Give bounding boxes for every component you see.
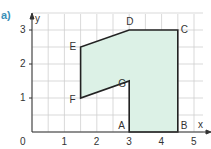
- y-tick-label: 1: [20, 93, 26, 103]
- vertex-label-e: E: [70, 42, 77, 52]
- vertex-label-g: G: [118, 79, 126, 89]
- y-tick-label: 2: [20, 59, 26, 69]
- coordinate-figure: a) 123451230xyABCDEFG: [0, 0, 211, 149]
- y-tick-label: 3: [20, 25, 26, 35]
- x-tick-label: 5: [191, 137, 197, 147]
- vertex-label-c: C: [181, 25, 188, 35]
- x-tick-label: 3: [126, 137, 132, 147]
- x-tick-label: 2: [94, 137, 100, 147]
- x-tick-label: 4: [159, 137, 165, 147]
- origin-label: 0: [20, 137, 26, 147]
- vertex-label-d: D: [126, 17, 133, 27]
- x-tick-label: 1: [61, 137, 67, 147]
- y-axis-label: y: [35, 14, 40, 24]
- x-axis-label: x: [198, 120, 203, 130]
- vertex-label-a: A: [118, 121, 125, 131]
- coordinate-grid: [0, 0, 211, 149]
- vertex-label-f: F: [70, 95, 76, 105]
- vertex-label-b: B: [181, 121, 188, 131]
- polygon-shape: [81, 30, 178, 132]
